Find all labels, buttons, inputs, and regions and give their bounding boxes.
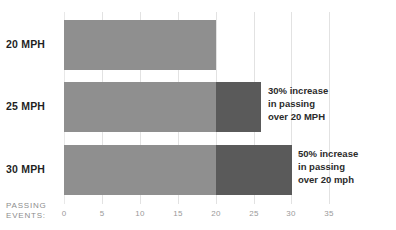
axis-caption-line-2: EVENTS:: [6, 211, 47, 221]
category-label-25-mph: 25 MPH: [6, 100, 62, 112]
x-tick-label-20: 20: [211, 209, 221, 218]
annotation-line: over 20 MPH: [268, 110, 328, 123]
bar-segment-baseline: [64, 20, 216, 70]
axis-caption: PASSING EVENTS:: [6, 201, 47, 221]
bar-segment-baseline: [64, 82, 216, 132]
annotation-line: in passing: [298, 160, 358, 173]
annotation-line: in passing: [268, 97, 328, 110]
annotation-line: 30% increase: [268, 84, 328, 97]
x-tick-label-0: 0: [62, 209, 67, 218]
x-tick-label-15: 15: [173, 209, 183, 218]
bars-layer: 20 MPH25 MPH30 MPH30% increasein passing…: [0, 0, 396, 230]
bar-segment-baseline: [64, 145, 216, 195]
x-tick-label-25: 25: [249, 209, 259, 218]
bar-chart: 20 MPH25 MPH30 MPH30% increasein passing…: [0, 0, 396, 230]
x-tick-label-30: 30: [286, 209, 296, 218]
annotation-line: over 20 mph: [298, 173, 358, 186]
category-label-30-mph: 30 MPH: [6, 163, 62, 175]
bar-segment-additional: [216, 82, 261, 132]
annotation-25-mph: 30% increasein passingover 20 MPH: [268, 84, 328, 123]
x-tick-label-10: 10: [135, 209, 145, 218]
annotation-30-mph: 50% increasein passingover 20 mph: [298, 147, 358, 186]
x-tick-label-5: 5: [100, 209, 105, 218]
bar-segment-additional: [216, 145, 292, 195]
axis-caption-line-1: PASSING: [6, 201, 47, 211]
annotation-line: 50% increase: [298, 147, 358, 160]
x-tick-label-35: 35: [324, 209, 334, 218]
category-label-20-mph: 20 MPH: [6, 38, 62, 50]
